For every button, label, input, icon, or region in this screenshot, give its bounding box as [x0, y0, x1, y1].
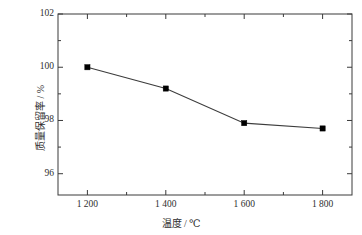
- y-axis-tick-label: 96: [24, 169, 54, 179]
- y-axis-title: 质量保留率 / %: [36, 84, 46, 150]
- x-axis-tick-label: 1 400: [155, 200, 176, 210]
- data-point-marker: [163, 86, 168, 91]
- plot-frame: [58, 14, 352, 195]
- y-axis-tick-label: 100: [24, 62, 54, 72]
- x-axis-tick-label: 1 800: [312, 200, 333, 210]
- data-point-marker: [242, 121, 247, 126]
- y-axis-tick-label: 102: [24, 9, 54, 19]
- x-axis-tick-label: 1 600: [234, 200, 255, 210]
- chart-plot-area: [0, 0, 362, 235]
- chart-figure: 9698100102 1 2001 4001 6001 800 质量保留率 / …: [0, 0, 362, 235]
- x-axis-title: 温度 / ℃: [0, 219, 362, 229]
- data-point-marker: [85, 65, 90, 70]
- data-point-marker: [320, 126, 325, 131]
- x-axis-tick-label: 1 200: [77, 200, 98, 210]
